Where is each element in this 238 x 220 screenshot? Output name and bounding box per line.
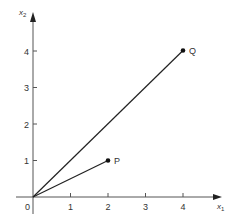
y-axis-label-sub: 2 — [23, 12, 27, 18]
y-tick-1: 1 — [24, 156, 29, 166]
point-p-label: P — [114, 156, 120, 166]
y-axis-arrow-icon — [30, 12, 36, 22]
x-axis: 0 1 2 3 4 x1 — [16, 193, 225, 212]
vector-q: Q — [33, 46, 196, 197]
x-tick-4: 4 — [181, 202, 186, 212]
x-tick-3: 3 — [143, 202, 148, 212]
x-axis-label-sub: 1 — [221, 206, 225, 212]
point-p-dot-icon — [106, 158, 111, 163]
x-axis-ticks — [71, 193, 184, 197]
x-tick-0: 0 — [25, 202, 30, 212]
y-axis-ticks — [33, 51, 37, 161]
x-axis-arrow-icon — [213, 194, 222, 200]
point-q-dot-icon — [181, 48, 186, 53]
x-tick-1: 1 — [68, 202, 73, 212]
y-tick-2: 2 — [24, 120, 29, 130]
y-axis: 1 2 3 4 x2 — [18, 8, 37, 214]
point-q-label: Q — [189, 46, 196, 56]
y-axis-label: x2 — [18, 8, 27, 18]
vector-diagram: 0 1 2 3 4 x1 1 2 3 4 x2 — [0, 0, 238, 220]
x-tick-2: 2 — [106, 202, 111, 212]
y-tick-4: 4 — [24, 47, 29, 57]
vector-p: P — [33, 156, 120, 197]
x-axis-label: x1 — [216, 202, 225, 212]
y-tick-3: 3 — [24, 83, 29, 93]
